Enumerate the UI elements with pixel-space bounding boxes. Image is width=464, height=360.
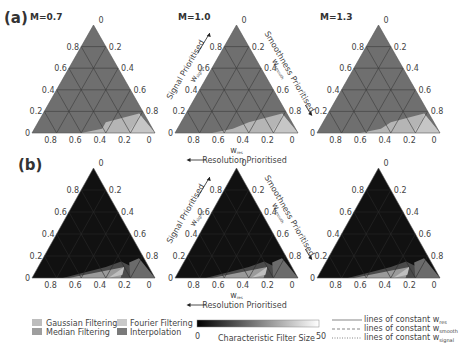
line-legend-label-signal: lines of constant wsignal <box>364 333 454 344</box>
left-tick-label: 0.2 <box>315 252 328 261</box>
bottom-axis-var: wres <box>230 146 243 155</box>
bottom-tick-label: 0.6 <box>69 281 82 290</box>
bottom-tick-label: 0.6 <box>354 281 367 290</box>
apex-tick-label: 0 <box>242 16 247 25</box>
right-tick-label: 0.8 <box>431 107 444 116</box>
bottom-tick-label: 0.6 <box>69 136 82 145</box>
legend-swatch-interpolation <box>117 328 127 335</box>
ternary-plot-1-0: 00.20.40.60.800.20.40.60.80.80.60.40.20 <box>25 159 159 290</box>
bottom-axis-arrowhead <box>187 158 191 162</box>
left-tick-label: 0.4 <box>42 86 55 95</box>
m-label-1: M=1.0 <box>178 12 210 22</box>
bottom-tick-label: 0.6 <box>212 136 225 145</box>
right-tick-label: 0.2 <box>252 43 265 52</box>
bottom-tick-label: 0.8 <box>187 281 200 290</box>
left-tick-label: 0 <box>168 274 173 283</box>
bottom-tick-label: 0.4 <box>236 136 249 145</box>
apex-tick-label: 0 <box>99 159 104 168</box>
m-label-2: M=1.3 <box>320 12 352 22</box>
left-tick-label: 0.6 <box>54 64 67 73</box>
left-tick-label: 0.8 <box>209 43 222 52</box>
bottom-tick-label: 0.2 <box>118 136 131 145</box>
figure: (a) M=0.7 M=1.0 M=1.3 (b) 00.20.40.60.80… <box>0 0 464 360</box>
right-tick-label: 0.6 <box>276 230 289 239</box>
apex-tick-label: 0 <box>384 159 389 168</box>
left-tick-label: 0.2 <box>173 252 186 261</box>
bottom-tick-label: 0 <box>146 281 151 290</box>
left-tick-label: 0.4 <box>327 86 340 95</box>
legend-swatch-gaussian <box>32 319 42 326</box>
panel-label-b: (b) <box>18 156 42 174</box>
right-tick-label: 0.6 <box>418 230 431 239</box>
colorbar-label: Characteristic Filter Size <box>218 334 315 343</box>
right-tick-label: 0.4 <box>406 208 419 217</box>
apex-tick-label: 0 <box>384 16 389 25</box>
bottom-tick-label: 0.6 <box>354 136 367 145</box>
m-label-0: M=0.7 <box>30 12 62 22</box>
ternary-plot-0-2: 00.20.40.60.800.20.40.60.80.80.60.40.20 <box>310 16 444 145</box>
left-tick-label: 0 <box>25 129 30 138</box>
left-tick-label: 0.4 <box>327 230 340 239</box>
left-tick-label: 0.4 <box>185 230 198 239</box>
left-tick-label: 0.2 <box>30 107 43 116</box>
right-tick-label: 0.8 <box>146 107 159 116</box>
bottom-tick-label: 0 <box>289 136 294 145</box>
left-tick-label: 0 <box>310 274 315 283</box>
bottom-tick-label: 0.4 <box>93 136 106 145</box>
panel-label-a: (a) <box>4 9 28 27</box>
right-tick-label: 0.2 <box>394 43 407 52</box>
left-tick-label: 0.8 <box>351 186 364 195</box>
left-tick-label: 0.8 <box>66 43 79 52</box>
ternary-plot-0-0: 00.20.40.60.800.20.40.60.80.80.60.40.20 <box>25 16 159 145</box>
ternary-plot-1-2: 00.20.40.60.800.20.40.60.80.80.60.40.20 <box>310 159 444 290</box>
legend-label-fourier: Fourier Filtering <box>130 319 193 328</box>
bottom-tick-label: 0 <box>289 281 294 290</box>
right-tick-label: 0.2 <box>252 186 265 195</box>
right-tick-label: 0.6 <box>133 230 146 239</box>
apex-tick-label: 0 <box>99 16 104 25</box>
bottom-tick-label: 0.4 <box>378 281 391 290</box>
bottom-tick-label: 0.2 <box>118 281 131 290</box>
bottom-tick-label: 0.8 <box>44 281 57 290</box>
left-tick-label: 0.6 <box>339 208 352 217</box>
bottom-tick-label: 0.8 <box>44 136 57 145</box>
right-tick-label: 0.8 <box>431 252 444 261</box>
right-tick-label: 0.8 <box>289 252 302 261</box>
legend-label-median: Median Filtering <box>46 328 110 337</box>
bottom-tick-label: 0.6 <box>212 281 225 290</box>
bottom-tick-label: 0 <box>431 281 436 290</box>
left-tick-label: 0.8 <box>66 186 79 195</box>
bottom-tick-label: 0.2 <box>261 281 274 290</box>
bottom-axis-label: Resolution Prioritised <box>202 301 286 310</box>
left-tick-label: 0 <box>168 129 173 138</box>
bottom-axis-arrowhead <box>187 303 191 307</box>
right-tick-label: 0.4 <box>121 208 134 217</box>
colorbar-gradient <box>197 320 319 327</box>
colorbar: 0 Characteristic Filter Size 50 <box>195 320 326 343</box>
left-tick-label: 0.6 <box>54 208 67 217</box>
bottom-tick-label: 0.4 <box>378 136 391 145</box>
legend-swatch-fourier <box>117 319 127 326</box>
right-tick-label: 0.4 <box>406 64 419 73</box>
right-tick-label: 0.6 <box>133 86 146 95</box>
bottom-tick-label: 0.2 <box>403 281 416 290</box>
bottom-tick-label: 0.4 <box>93 281 106 290</box>
bottom-tick-label: 0.2 <box>261 136 274 145</box>
legend-swatch-median <box>32 328 42 335</box>
left-tick-label: 0.2 <box>173 107 186 116</box>
bottom-tick-label: 0.8 <box>329 281 342 290</box>
right-tick-label: 0.8 <box>289 107 302 116</box>
right-tick-label: 0.8 <box>146 252 159 261</box>
bottom-tick-label: 0.4 <box>236 281 249 290</box>
bottom-tick-label: 0.2 <box>403 136 416 145</box>
right-tick-label: 0.6 <box>276 86 289 95</box>
bottom-axis-var: wres <box>230 291 243 300</box>
right-tick-label: 0.2 <box>394 186 407 195</box>
legend-label-gaussian: Gaussian Filtering <box>46 319 117 328</box>
line-legend: lines of constant wres lines of constant… <box>332 315 458 344</box>
left-tick-label: 0.8 <box>209 186 222 195</box>
bottom-tick-label: 0.8 <box>187 136 200 145</box>
bottom-tick-label: 0 <box>146 136 151 145</box>
bottom-axis-label: Resolution Prioritised <box>202 156 286 165</box>
bottom-tick-label: 0.8 <box>329 136 342 145</box>
